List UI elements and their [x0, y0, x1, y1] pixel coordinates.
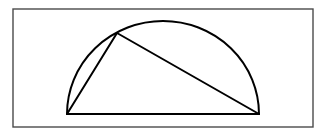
- chord-left: [67, 33, 117, 114]
- semicircle-triangle-diagram: [0, 0, 324, 134]
- chord-right: [117, 33, 259, 114]
- diagram-frame: [13, 9, 313, 127]
